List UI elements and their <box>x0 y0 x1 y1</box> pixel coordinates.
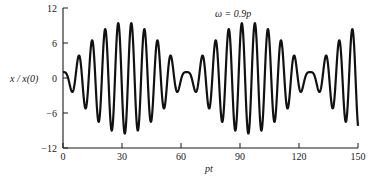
x-tick-label: 30 <box>117 151 127 162</box>
x-axis-label: pt <box>204 163 213 174</box>
response-curve <box>63 23 358 133</box>
y-tick-label: 0 <box>52 73 57 84</box>
y-axis-label: x / x(0) <box>9 73 39 85</box>
y-tick-label: −12 <box>41 143 57 154</box>
x-ticks: 0306090120150 <box>61 143 366 162</box>
y-tick-label: 6 <box>52 38 57 49</box>
y-ticks: 1260−6−12 <box>41 3 68 154</box>
x-tick-label: 150 <box>351 151 366 162</box>
y-tick-label: −6 <box>46 108 57 119</box>
x-tick-label: 60 <box>176 151 186 162</box>
x-tick-label: 120 <box>292 151 307 162</box>
axes <box>63 8 358 148</box>
omega-annotation: ω = 0.9p <box>215 8 251 19</box>
x-tick-label: 0 <box>61 151 66 162</box>
x-tick-label: 90 <box>235 151 245 162</box>
y-tick-label: 12 <box>47 3 57 14</box>
chart: 1260−6−12 0306090120150 ω = 0.9p x / x(0… <box>0 0 371 189</box>
